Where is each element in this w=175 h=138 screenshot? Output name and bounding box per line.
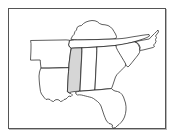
map-figure: KentuckyTennesseeArkansasLouisianaMissis… bbox=[0, 0, 175, 138]
state-florida[interactable]: Florida bbox=[76, 89, 127, 128]
state-kentucky[interactable]: Kentucky bbox=[71, 21, 117, 41]
southeast-us-map[interactable]: KentuckyTennesseeArkansasLouisianaMissis… bbox=[9, 9, 167, 130]
state-arkansas[interactable]: Arkansas bbox=[31, 40, 72, 68]
map-frame-border: KentuckyTennesseeArkansasLouisianaMissis… bbox=[8, 8, 166, 129]
states-layer: KentuckyTennesseeArkansasLouisianaMissis… bbox=[31, 21, 159, 129]
state-alabama[interactable]: Alabama bbox=[80, 47, 97, 91]
